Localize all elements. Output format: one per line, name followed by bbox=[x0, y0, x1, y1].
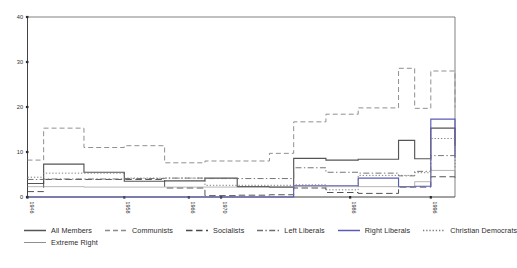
legend-row: All MembersCommunistsSocialistsLeft Libe… bbox=[24, 226, 469, 235]
y-tick-label: 40 bbox=[17, 14, 23, 20]
series-line-christian-democrats bbox=[28, 139, 456, 190]
x-tick-label: 1996 bbox=[432, 202, 438, 214]
legend-label-all-members: All Members bbox=[51, 226, 92, 235]
series-line-right-liberals bbox=[28, 119, 456, 197]
legend-swatch-communists bbox=[105, 227, 127, 234]
legend-swatch-right-liberals bbox=[338, 227, 360, 234]
legend-swatch-socialists bbox=[186, 227, 208, 234]
legend-swatch-extreme-right bbox=[24, 239, 46, 246]
legend-label-communists: Communists bbox=[132, 226, 173, 235]
legend-item-christian-democrats[interactable]: Christian Democrats bbox=[423, 226, 517, 235]
legend-item-right-liberals[interactable]: Right Liberals bbox=[338, 226, 410, 235]
legend-label-left-liberals: Left Liberals bbox=[284, 226, 324, 235]
x-tick-label: 1970 bbox=[222, 202, 228, 214]
legend-item-communists[interactable]: Communists bbox=[105, 226, 173, 235]
y-tick-label: 0 bbox=[20, 194, 23, 200]
legend-row: Extreme Right bbox=[24, 238, 469, 247]
chart-canvas: 010203040 194619581966197019861996 bbox=[0, 0, 469, 232]
y-tick-label: 10 bbox=[17, 149, 23, 155]
legend-label-right-liberals: Right Liberals bbox=[365, 226, 410, 235]
y-tick-label: 30 bbox=[17, 59, 23, 65]
series-line-communists bbox=[28, 68, 456, 163]
x-tick-label: 1946 bbox=[29, 202, 35, 214]
legend-item-socialists[interactable]: Socialists bbox=[186, 226, 244, 235]
legend-swatch-christian-democrats bbox=[423, 227, 445, 234]
y-tick-label: 20 bbox=[17, 104, 23, 110]
legend-item-extreme-right[interactable]: Extreme Right bbox=[24, 238, 98, 247]
x-tick-label: 1966 bbox=[190, 202, 196, 214]
y-axis: 010203040 bbox=[17, 14, 29, 200]
legend-label-christian-democrats: Christian Democrats bbox=[450, 226, 517, 235]
legend-swatch-all-members bbox=[24, 227, 46, 234]
chart-legend: All MembersCommunistsSocialistsLeft Libe… bbox=[0, 226, 469, 268]
legend-swatch-left-liberals bbox=[257, 227, 279, 234]
legend-label-extreme-right: Extreme Right bbox=[51, 238, 98, 247]
legend-item-left-liberals[interactable]: Left Liberals bbox=[257, 226, 324, 235]
x-tick-label: 1986 bbox=[351, 202, 357, 214]
legend-label-socialists: Socialists bbox=[213, 226, 244, 235]
x-axis: 194619581966197019861996 bbox=[26, 196, 455, 214]
legend-item-all-members[interactable]: All Members bbox=[24, 226, 92, 235]
x-tick-label: 1958 bbox=[125, 202, 131, 214]
step-line-chart: 010203040 194619581966197019861996 bbox=[0, 0, 469, 232]
series-lines bbox=[28, 68, 456, 197]
plot-frame bbox=[28, 17, 456, 197]
